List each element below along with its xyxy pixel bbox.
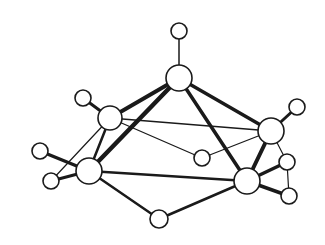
atom-B_right_upper: [258, 118, 284, 144]
bonds-layer: [40, 31, 297, 219]
bond-B_left_lower-B_right_lower: [89, 171, 247, 181]
bond-B_right_lower-H_bottom_bridge: [159, 181, 247, 219]
atom-H_left_lower_a: [32, 143, 48, 159]
atoms-layer: [32, 23, 305, 228]
atom-H_left_upper: [75, 90, 91, 106]
bond-B_apex-B_right_lower: [179, 78, 247, 181]
atom-B_left_lower: [76, 158, 102, 184]
atom-H_right_lower_a: [279, 154, 295, 170]
atom-B_right_lower: [234, 168, 260, 194]
atom-H_left_lower_b: [43, 173, 59, 189]
bond-B_apex-B_right_upper: [179, 78, 271, 131]
atom-H_right_lower_b: [281, 188, 297, 204]
atom-H_back: [194, 150, 210, 166]
atom-H_top: [171, 23, 187, 39]
molecule-diagram: [0, 0, 325, 245]
atom-B_apex: [166, 65, 192, 91]
atom-B_left_upper: [98, 106, 122, 130]
atom-H_bottom_bridge: [150, 210, 168, 228]
atom-H_right_upper: [289, 99, 305, 115]
